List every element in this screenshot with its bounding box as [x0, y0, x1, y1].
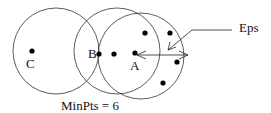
label-eps: Eps: [239, 21, 259, 34]
label-minpts: MinPts = 6: [61, 99, 119, 112]
neighborhood-a-circle: [98, 13, 184, 99]
label-a: A: [130, 59, 139, 72]
point: [167, 30, 172, 35]
point-c: [29, 48, 34, 53]
point: [111, 51, 116, 56]
point-b: [96, 51, 101, 56]
label-c: C: [26, 57, 35, 70]
point: [160, 80, 165, 85]
point: [174, 59, 179, 64]
point: [142, 30, 147, 35]
label-b: B: [88, 47, 97, 60]
dbscan-diagram: [0, 0, 271, 113]
